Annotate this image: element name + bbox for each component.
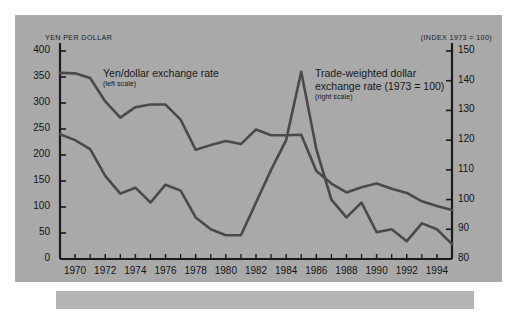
data-series-lines <box>60 72 452 244</box>
ytick-label-left: 200 <box>15 148 50 159</box>
ytick-label-left: 350 <box>15 70 50 81</box>
ytick-label-left: 400 <box>15 44 50 55</box>
ytick-label-left: 50 <box>15 226 50 237</box>
ytick-label-right: 100 <box>458 193 475 204</box>
series-line-trade-weighted-dollar <box>60 72 452 244</box>
series-line-yen <box>60 73 452 210</box>
axis-lines <box>60 43 452 259</box>
ytick-label-left: 0 <box>15 252 50 263</box>
ytick-label-right: 90 <box>458 222 469 233</box>
ytick-label-right: 150 <box>458 44 475 55</box>
ytick-label-right: 120 <box>458 133 475 144</box>
chart-panel: YEN PER DOLLAR (INDEX 1973 = 100) Yen/do… <box>15 15 502 282</box>
ytick-label-left: 100 <box>15 200 50 211</box>
ytick-label-right: 110 <box>458 163 474 174</box>
ytick-label-right: 80 <box>458 252 469 263</box>
ytick-label-left: 150 <box>15 174 50 185</box>
axis-tick-marks <box>60 51 452 259</box>
chart-plot-area <box>15 15 502 282</box>
xtick-label: 1994 <box>417 265 457 276</box>
ytick-label-left: 300 <box>15 96 50 107</box>
ytick-label-left: 250 <box>15 122 50 133</box>
caption-bar <box>56 291 474 309</box>
ytick-label-right: 140 <box>458 74 475 85</box>
ytick-label-right: 130 <box>458 103 475 114</box>
